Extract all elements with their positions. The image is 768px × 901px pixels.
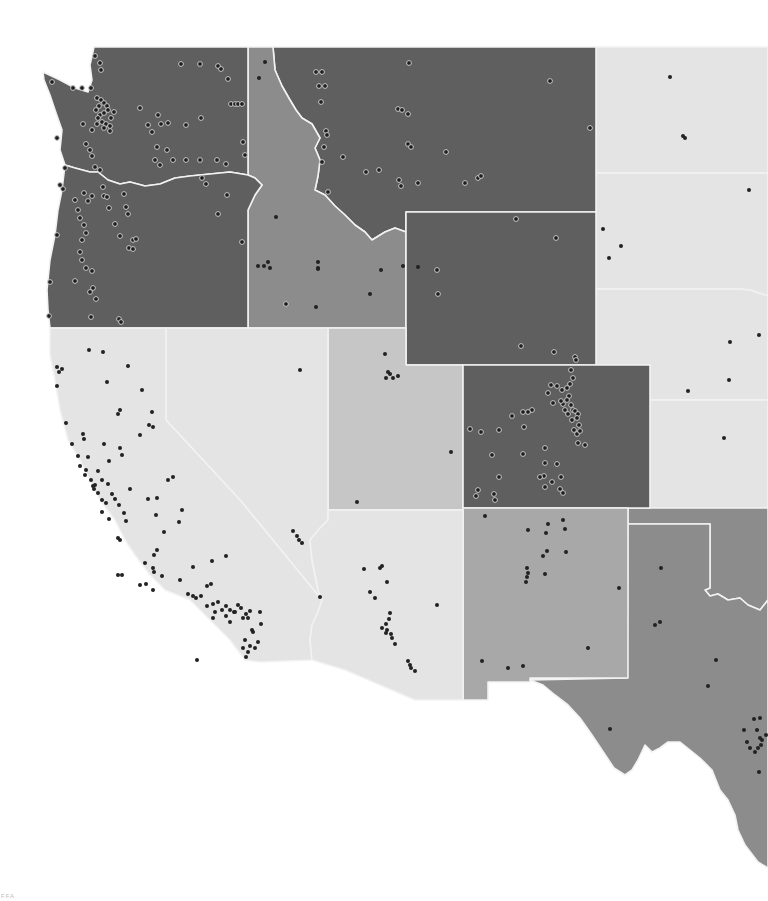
location-point[interactable] (153, 158, 158, 163)
location-point[interactable] (225, 193, 230, 198)
location-point[interactable] (73, 279, 78, 284)
location-point[interactable] (156, 113, 161, 118)
location-point[interactable] (393, 642, 397, 646)
location-point[interactable] (155, 496, 159, 500)
location-point[interactable] (541, 554, 545, 558)
location-point[interactable] (497, 475, 502, 480)
location-point[interactable] (93, 165, 98, 170)
location-point[interactable] (355, 500, 359, 504)
location-point[interactable] (436, 292, 441, 297)
location-point[interactable] (619, 244, 623, 248)
location-point[interactable] (88, 290, 93, 295)
location-point[interactable] (82, 191, 87, 196)
location-point[interactable] (396, 374, 400, 378)
location-point[interactable] (150, 410, 154, 414)
location-point[interactable] (409, 666, 413, 670)
location-point[interactable] (90, 194, 95, 199)
location-point[interactable] (521, 664, 525, 668)
location-point[interactable] (107, 206, 112, 211)
location-point[interactable] (186, 592, 190, 596)
location-point[interactable] (284, 302, 289, 307)
location-point[interactable] (194, 596, 198, 600)
location-point[interactable] (95, 122, 100, 127)
location-point[interactable] (160, 574, 164, 578)
location-point[interactable] (140, 388, 144, 392)
location-point[interactable] (561, 491, 566, 496)
location-point[interactable] (118, 408, 122, 412)
location-point[interactable] (150, 130, 155, 135)
location-point[interactable] (179, 62, 184, 67)
location-point[interactable] (543, 461, 548, 466)
location-point[interactable] (521, 452, 526, 457)
location-point[interactable] (119, 320, 124, 325)
location-point[interactable] (550, 480, 555, 485)
location-point[interactable] (256, 264, 260, 268)
location-point[interactable] (205, 584, 209, 588)
location-point[interactable] (549, 383, 554, 388)
location-point[interactable] (84, 142, 89, 147)
location-point[interactable] (116, 573, 120, 577)
location-point[interactable] (109, 116, 114, 121)
location-point[interactable] (240, 102, 245, 107)
location-point[interactable] (566, 412, 571, 417)
location-point[interactable] (479, 174, 484, 179)
location-point[interactable] (216, 212, 221, 217)
location-point[interactable] (211, 602, 215, 606)
location-point[interactable] (322, 145, 327, 150)
location-point[interactable] (107, 517, 111, 521)
location-point[interactable] (220, 608, 224, 612)
location-point[interactable] (323, 84, 328, 89)
location-point[interactable] (98, 61, 103, 66)
location-point[interactable] (526, 571, 530, 575)
location-point[interactable] (563, 527, 567, 531)
location-point[interactable] (105, 195, 110, 200)
location-point[interactable] (99, 68, 104, 73)
location-point[interactable] (764, 733, 768, 737)
location-point[interactable] (548, 79, 553, 84)
location-point[interactable] (586, 646, 590, 650)
location-point[interactable] (564, 550, 568, 554)
location-point[interactable] (747, 188, 751, 192)
location-point[interactable] (83, 473, 87, 477)
location-point[interactable] (138, 106, 143, 111)
location-point[interactable] (251, 630, 255, 634)
location-point[interactable] (476, 488, 481, 493)
location-point[interactable] (210, 559, 214, 563)
location-point[interactable] (191, 565, 195, 569)
location-point[interactable] (180, 508, 184, 512)
location-point[interactable] (480, 659, 484, 663)
location-point[interactable] (388, 611, 392, 615)
location-point[interactable] (543, 485, 548, 490)
location-point[interactable] (326, 190, 331, 195)
state-oregon[interactable] (47, 165, 262, 328)
location-point[interactable] (368, 292, 372, 296)
state-south-dakota[interactable] (596, 173, 768, 296)
location-point[interactable] (493, 498, 498, 503)
location-point[interactable] (117, 503, 121, 507)
location-point[interactable] (228, 608, 232, 612)
location-point[interactable] (263, 60, 267, 64)
location-point[interactable] (686, 389, 690, 393)
location-point[interactable] (483, 514, 487, 518)
location-point[interactable] (113, 222, 118, 227)
location-point[interactable] (106, 482, 110, 486)
location-point[interactable] (154, 513, 158, 517)
location-point[interactable] (73, 198, 78, 203)
location-point[interactable] (219, 67, 224, 72)
location-point[interactable] (524, 580, 528, 584)
location-point[interactable] (89, 478, 93, 482)
location-point[interactable] (298, 368, 302, 372)
location-point[interactable] (55, 384, 59, 388)
location-point[interactable] (120, 573, 124, 577)
location-point[interactable] (246, 616, 250, 620)
location-point[interactable] (497, 428, 502, 433)
location-point[interactable] (659, 566, 663, 570)
location-point[interactable] (244, 612, 248, 616)
location-point[interactable] (166, 478, 170, 482)
location-point[interactable] (84, 231, 89, 236)
location-point[interactable] (565, 398, 570, 403)
location-point[interactable] (468, 427, 473, 432)
location-point[interactable] (76, 208, 81, 213)
location-point[interactable] (104, 501, 108, 505)
location-point[interactable] (215, 158, 220, 163)
